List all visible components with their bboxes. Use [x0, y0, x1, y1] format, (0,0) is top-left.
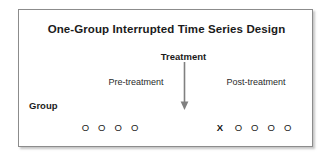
observation-mark: O [131, 120, 138, 136]
treatment-symbol: X [217, 122, 223, 133]
observation-mark: O [284, 120, 291, 136]
post-treatment-observations: O O O O [227, 120, 299, 136]
observation-mark: O [268, 120, 275, 136]
pre-treatment-label: Pre-treatment [71, 77, 201, 87]
treatment-marker: X [150, 120, 222, 136]
diagram-frame: One-Group Interrupted Time Series Design… [18, 9, 313, 147]
treatment-label-text: Treatment [161, 51, 206, 62]
observation-mark: O [251, 120, 258, 136]
group-label: Group [29, 100, 58, 111]
diagram-title: One-Group Interrupted Time Series Design [19, 23, 314, 35]
observation-mark: O [115, 120, 122, 136]
observation-mark: O [235, 120, 242, 136]
treatment-label: Treatment [19, 51, 314, 62]
observation-mark: O [98, 120, 105, 136]
observation-row: O O O O X O O O O [19, 120, 314, 136]
pre-treatment-observations: O O O O [74, 120, 146, 136]
screenshot-canvas: One-Group Interrupted Time Series Design… [0, 0, 332, 161]
observation-mark: O [82, 120, 89, 136]
post-treatment-label: Post-treatment [201, 77, 311, 87]
